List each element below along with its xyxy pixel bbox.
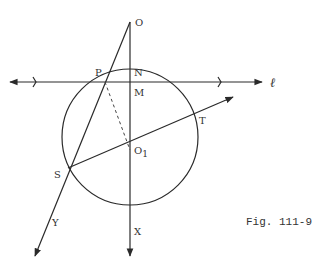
label-o: O	[135, 17, 143, 28]
dashed-line-po1	[105, 82, 130, 150]
label-ell: ℓ	[270, 75, 276, 90]
label-s: S	[54, 169, 61, 180]
figure-caption: Fig. 111-9	[246, 216, 312, 228]
line-oy	[35, 22, 130, 256]
label-p: P	[95, 67, 102, 78]
label-m: M	[134, 87, 144, 98]
line-st	[68, 97, 233, 168]
label-y: Y	[51, 217, 59, 228]
label-t: T	[199, 115, 206, 126]
label-x: X	[134, 226, 142, 237]
label-n: N	[134, 67, 143, 78]
label-o1: O1	[134, 145, 148, 159]
geometry-figure: O P N M O1 T S Y X ℓ Fig. 111-9	[0, 0, 327, 274]
